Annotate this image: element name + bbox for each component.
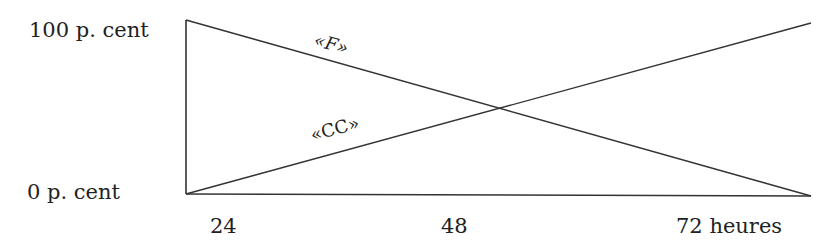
- series-cc-line: [186, 23, 811, 194]
- x-tick-24: 24: [210, 216, 237, 237]
- x-tick-48: 48: [441, 216, 468, 237]
- y-tick-100: 100 p. cent: [29, 20, 149, 41]
- y-tick-0: 0 p. cent: [27, 182, 120, 203]
- x-axis: [186, 194, 811, 196]
- x-tick-72: 72 heures: [676, 216, 782, 237]
